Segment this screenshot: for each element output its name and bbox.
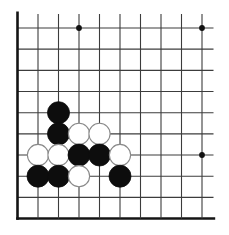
black-stone[interactable] bbox=[48, 102, 70, 124]
star-point bbox=[76, 25, 82, 31]
white-stone[interactable] bbox=[68, 123, 89, 144]
white-stone[interactable] bbox=[109, 144, 130, 165]
black-stone[interactable] bbox=[89, 144, 111, 166]
black-stone[interactable] bbox=[48, 123, 70, 145]
black-stone[interactable] bbox=[68, 144, 90, 166]
black-stone[interactable] bbox=[27, 165, 49, 187]
white-stone[interactable] bbox=[68, 166, 89, 187]
star-point bbox=[199, 25, 205, 31]
go-diagram bbox=[0, 0, 229, 235]
star-point bbox=[199, 152, 205, 158]
white-stone[interactable] bbox=[48, 144, 69, 165]
black-stone[interactable] bbox=[48, 165, 70, 187]
white-stone[interactable] bbox=[89, 123, 110, 144]
black-stone[interactable] bbox=[109, 165, 131, 187]
go-board[interactable] bbox=[0, 0, 229, 235]
white-stone[interactable] bbox=[27, 144, 48, 165]
